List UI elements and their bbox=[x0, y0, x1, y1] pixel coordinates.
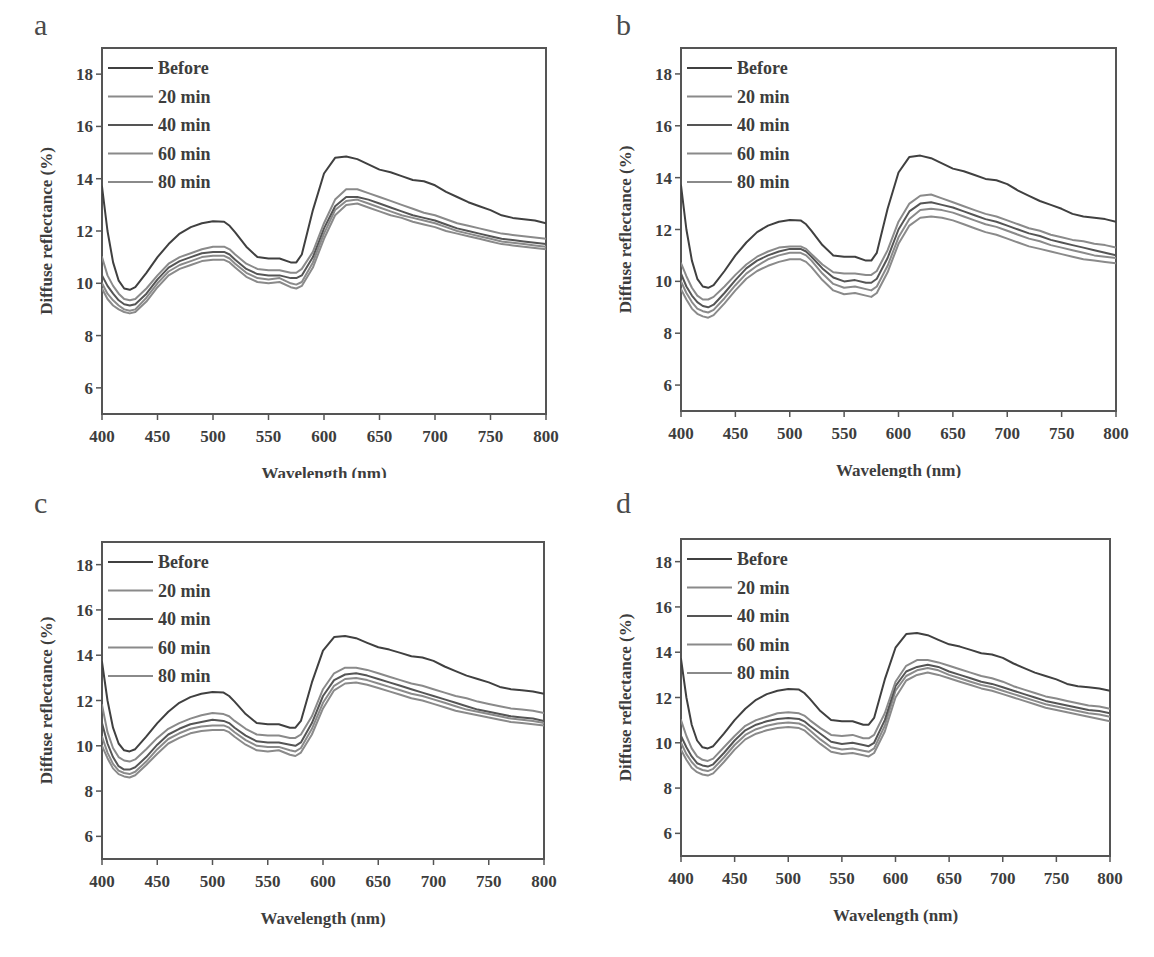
panel-d: d 400450500550600650700750800Wavelength … bbox=[577, 478, 1154, 957]
panel-letter: d bbox=[616, 486, 631, 520]
x-tick-label: 650 bbox=[940, 424, 966, 443]
panel-b: b 400450500550600650700750800Wavelength … bbox=[577, 0, 1154, 478]
x-axis: 400450500550600650700750800 bbox=[89, 859, 557, 891]
legend-label: 80 min bbox=[737, 663, 790, 683]
x-tick-label: 500 bbox=[200, 427, 226, 446]
legend-item: Before bbox=[687, 58, 788, 78]
legend-label: Before bbox=[737, 58, 788, 78]
legend-label: 20 min bbox=[737, 87, 790, 107]
legend-label: 80 min bbox=[737, 172, 790, 192]
y-tick-label: 18 bbox=[76, 556, 93, 575]
legend-item: 20 min bbox=[108, 87, 211, 107]
legend-label: 40 min bbox=[737, 606, 790, 626]
y-tick-label: 10 bbox=[655, 272, 672, 291]
legend-label: Before bbox=[158, 58, 209, 78]
legend-item: Before bbox=[108, 58, 209, 78]
legend-label: 40 min bbox=[737, 115, 790, 135]
legend-label: 80 min bbox=[158, 666, 211, 686]
legend-item: 80 min bbox=[687, 172, 790, 192]
x-tick-label: 400 bbox=[668, 869, 694, 888]
series-line-40-min bbox=[681, 202, 1116, 307]
x-tick-label: 400 bbox=[89, 427, 115, 446]
legend-item: 20 min bbox=[108, 581, 211, 601]
y-tick-label: 12 bbox=[655, 221, 672, 240]
y-axis-title: Diffuse reflectance (%) bbox=[616, 146, 635, 314]
legend-item: 80 min bbox=[108, 666, 211, 686]
x-tick-label: 750 bbox=[476, 872, 502, 891]
y-tick-label: 10 bbox=[655, 734, 672, 753]
y-tick-label: 14 bbox=[76, 646, 94, 665]
x-axis-title: Wavelength (nm) bbox=[260, 909, 385, 928]
legend-item: Before bbox=[108, 552, 209, 572]
x-axis: 400450500550600650700750800 bbox=[668, 411, 1129, 443]
x-tick-label: 550 bbox=[831, 424, 857, 443]
x-tick-label: 750 bbox=[1049, 424, 1075, 443]
x-tick-label: 700 bbox=[995, 424, 1021, 443]
y-tick-label: 16 bbox=[655, 598, 672, 617]
x-tick-label: 700 bbox=[422, 427, 448, 446]
legend-label: 20 min bbox=[158, 581, 211, 601]
legend-item: 20 min bbox=[687, 87, 790, 107]
x-tick-label: 450 bbox=[723, 424, 749, 443]
x-tick-label: 650 bbox=[367, 427, 393, 446]
x-axis-title: Wavelength (nm) bbox=[836, 461, 961, 478]
y-axis-title: Diffuse reflectance (%) bbox=[37, 147, 56, 315]
x-tick-label: 400 bbox=[668, 424, 694, 443]
x-tick-label: 700 bbox=[421, 872, 447, 891]
legend-item: 60 min bbox=[687, 144, 790, 164]
legend-label: 20 min bbox=[158, 87, 211, 107]
legend-item: 40 min bbox=[687, 606, 790, 626]
y-tick-label: 18 bbox=[655, 65, 672, 84]
legend-label: 40 min bbox=[158, 115, 211, 135]
y-tick-label: 8 bbox=[664, 779, 673, 798]
legend-label: Before bbox=[158, 552, 209, 572]
x-tick-label: 600 bbox=[883, 869, 909, 888]
legend-item: 40 min bbox=[687, 115, 790, 135]
x-tick-label: 450 bbox=[145, 872, 171, 891]
y-tick-label: 10 bbox=[76, 737, 93, 756]
y-tick-label: 6 bbox=[85, 379, 94, 398]
legend-item: 60 min bbox=[108, 144, 211, 164]
legend-item: 80 min bbox=[108, 172, 211, 192]
x-tick-label: 550 bbox=[829, 869, 855, 888]
series-line-40-min bbox=[102, 197, 546, 306]
panel-letter: c bbox=[34, 486, 47, 520]
x-tick-label: 600 bbox=[310, 872, 336, 891]
legend-item: 60 min bbox=[687, 635, 790, 655]
x-tick-label: 450 bbox=[145, 427, 171, 446]
y-tick-label: 12 bbox=[76, 692, 93, 711]
x-tick-label: 450 bbox=[722, 869, 748, 888]
legend: Before20 min40 min60 min80 min bbox=[108, 552, 211, 686]
reflectance-chart-b: 400450500550600650700750800Wavelength (n… bbox=[577, 0, 1154, 478]
y-axis: 681012141618 bbox=[76, 556, 102, 847]
x-tick-label: 700 bbox=[990, 869, 1016, 888]
y-tick-label: 12 bbox=[655, 689, 672, 708]
legend-item: 60 min bbox=[108, 638, 211, 658]
legend: Before20 min40 min60 min80 min bbox=[687, 549, 790, 683]
panel-c: c 400450500550600650700750800Wavelength … bbox=[0, 478, 577, 957]
legend-label: 60 min bbox=[737, 635, 790, 655]
y-axis-title: Diffuse reflectance (%) bbox=[37, 617, 56, 785]
x-tick-label: 650 bbox=[366, 872, 392, 891]
y-tick-label: 6 bbox=[664, 824, 673, 843]
x-tick-label: 800 bbox=[533, 427, 559, 446]
x-tick-label: 800 bbox=[1103, 424, 1129, 443]
y-tick-label: 6 bbox=[85, 827, 94, 846]
panel-letter: a bbox=[34, 8, 47, 42]
y-axis: 681012141618 bbox=[76, 65, 102, 398]
legend-label: 60 min bbox=[737, 144, 790, 164]
legend-label: 60 min bbox=[158, 144, 211, 164]
legend-label: 60 min bbox=[158, 638, 211, 658]
legend-item: Before bbox=[687, 549, 788, 569]
x-tick-label: 750 bbox=[478, 427, 504, 446]
y-tick-label: 6 bbox=[664, 376, 673, 395]
y-tick-label: 10 bbox=[76, 274, 93, 293]
legend: Before20 min40 min60 min80 min bbox=[687, 58, 790, 192]
series-line-20-min bbox=[681, 195, 1116, 300]
panel-letter: b bbox=[616, 8, 631, 42]
x-tick-label: 400 bbox=[89, 872, 115, 891]
y-axis: 681012141618 bbox=[655, 65, 681, 395]
y-tick-label: 16 bbox=[76, 117, 93, 136]
y-tick-label: 12 bbox=[76, 222, 93, 241]
x-tick-label: 600 bbox=[311, 427, 337, 446]
